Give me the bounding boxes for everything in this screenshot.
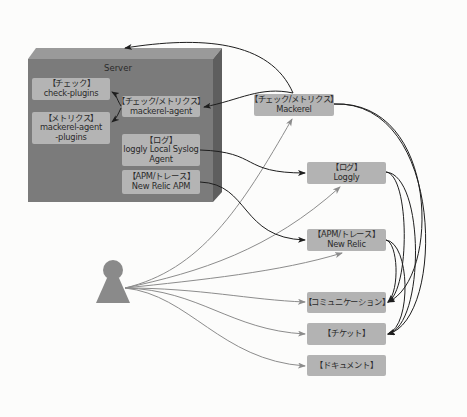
node-newrelic: 【APM/トレース】 New Relic <box>307 229 386 251</box>
node-mackerel-agent: 【チェック/メトリクス】 mackerel-agent <box>122 96 200 117</box>
node-name-line2: -plugins <box>55 133 86 143</box>
edge-mackerel-communication <box>334 104 422 302</box>
node-ticket: 【チケット】 <box>307 323 386 345</box>
node-category: 【コミュニケーション】 <box>304 298 390 308</box>
node-mackerel: 【チェック/メトリクス】 Mackerel <box>254 94 334 116</box>
node-name: Mackerel <box>276 105 311 115</box>
node-loggly-agent: 【ログ】 loggly Local Syslog Agent <box>122 134 200 166</box>
node-loggly: 【ログ】 Loggly <box>307 162 386 184</box>
node-name: Loggly <box>333 173 359 183</box>
node-name: New Relic APM <box>132 182 190 192</box>
node-check-plugins: 【チェック】 check-plugins <box>32 78 110 100</box>
node-name: New Relic <box>327 240 366 250</box>
node-document: 【ドキュメント】 <box>307 355 386 376</box>
node-name-line2: Agent <box>149 155 173 165</box>
node-category: 【ドキュメント】 <box>315 361 377 371</box>
diagram-canvas: Server 【チェック】 check-plugins 【メトリクス】 mack… <box>0 0 467 417</box>
diagram-graphics <box>0 0 467 417</box>
edge-newrelic-ticket <box>386 240 405 334</box>
edge-newrelic-communication <box>386 240 396 302</box>
node-mackerel-agent-plugins: 【メトリクス】 mackerel-agent -plugins <box>32 112 110 144</box>
node-name: mackerel-agent <box>130 107 192 117</box>
person-icon <box>96 260 130 303</box>
node-communication: 【コミュニケーション】 <box>307 292 386 313</box>
node-name: check-plugins <box>44 89 99 99</box>
edge-user-newrelic <box>125 253 342 288</box>
server-side-face <box>213 48 222 202</box>
server-label: Server <box>104 63 132 73</box>
server-top-face <box>28 48 222 59</box>
node-category: 【チケット】 <box>323 329 370 339</box>
node-newrelic-apm: 【APM/トレース】 New Relic APM <box>122 170 200 194</box>
